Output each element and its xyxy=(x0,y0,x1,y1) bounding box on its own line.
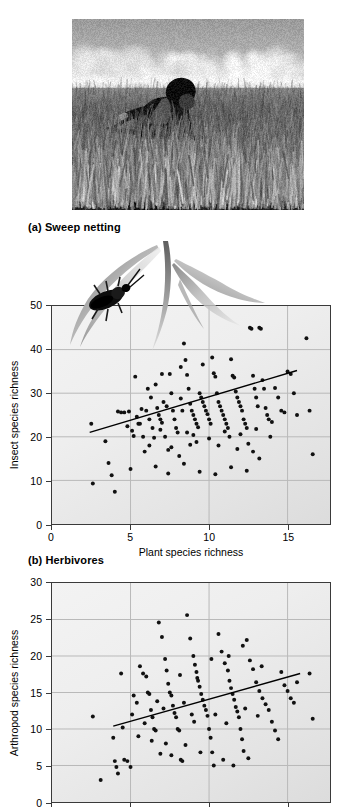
data-point xyxy=(276,737,280,741)
data-point xyxy=(207,437,211,441)
data-point xyxy=(185,373,189,377)
data-point xyxy=(279,670,283,674)
data-point xyxy=(210,355,214,359)
data-point xyxy=(257,457,261,461)
data-point xyxy=(151,426,155,430)
y-axis-tick-label: 15 xyxy=(0,687,42,699)
y-axis-tick-mark xyxy=(46,393,51,394)
y-axis-title: Arthropod species richness xyxy=(8,629,20,756)
data-point xyxy=(242,749,246,753)
data-point xyxy=(119,672,123,676)
scatter-points xyxy=(91,613,315,782)
data-point xyxy=(191,433,195,437)
data-point xyxy=(91,481,95,485)
data-point xyxy=(276,396,280,400)
x-axis-tick-mark xyxy=(130,525,131,530)
data-point xyxy=(171,704,175,708)
data-point xyxy=(113,490,117,494)
data-point xyxy=(223,417,227,421)
y-axis-tick-mark xyxy=(46,766,51,767)
data-point xyxy=(229,686,233,690)
data-point xyxy=(99,778,103,782)
data-point xyxy=(121,726,125,730)
data-point xyxy=(241,644,245,648)
data-point xyxy=(166,471,170,475)
data-point xyxy=(221,758,225,762)
data-point xyxy=(130,429,134,433)
data-point xyxy=(212,764,216,768)
data-point xyxy=(251,667,255,671)
y-axis-tick-mark xyxy=(46,693,51,694)
data-point xyxy=(195,670,199,674)
x-axis-tick-mark xyxy=(209,525,210,530)
data-point xyxy=(130,712,134,716)
data-point xyxy=(162,400,166,404)
x-axis-tick-mark xyxy=(130,803,131,807)
panel-caption-a: (a) Sweep netting xyxy=(28,221,121,233)
data-point xyxy=(201,362,205,366)
data-point xyxy=(251,450,255,454)
data-point xyxy=(229,465,233,469)
data-point xyxy=(157,413,161,417)
data-point xyxy=(143,450,147,454)
y-axis-tick-label: 25 xyxy=(0,613,42,625)
data-point xyxy=(129,467,133,471)
data-point xyxy=(155,699,159,703)
data-point xyxy=(212,371,216,375)
data-point xyxy=(234,705,238,709)
data-point xyxy=(226,426,230,430)
data-point xyxy=(158,752,162,756)
data-point xyxy=(173,417,177,421)
x-axis-tick-mark xyxy=(209,803,210,807)
data-point xyxy=(227,435,231,439)
data-point xyxy=(146,387,150,391)
data-point xyxy=(267,417,271,421)
data-point xyxy=(103,439,107,443)
y-axis-tick-label: 20 xyxy=(0,650,42,662)
data-point xyxy=(141,435,145,439)
data-point xyxy=(249,327,253,331)
data-point xyxy=(217,444,221,448)
data-point xyxy=(253,387,257,391)
data-point xyxy=(195,676,199,680)
data-point xyxy=(163,435,167,439)
data-point xyxy=(227,654,231,658)
data-point xyxy=(150,739,154,743)
data-point xyxy=(245,426,249,430)
y-axis-tick-mark xyxy=(46,481,51,482)
data-point xyxy=(206,412,210,416)
data-point xyxy=(209,736,213,740)
sweep-netting-photo xyxy=(72,19,304,210)
data-point xyxy=(190,409,194,413)
data-point xyxy=(246,756,250,760)
data-point xyxy=(169,693,173,697)
data-point xyxy=(245,469,249,473)
data-point xyxy=(147,444,151,448)
data-point xyxy=(204,409,208,413)
data-point xyxy=(133,375,137,379)
data-point xyxy=(132,434,136,438)
panel-caption-b: (b) Herbivores xyxy=(28,554,104,566)
data-point xyxy=(149,396,153,400)
data-point xyxy=(191,654,195,658)
data-point xyxy=(185,430,189,434)
data-point xyxy=(152,436,156,440)
data-point xyxy=(165,404,169,408)
data-point xyxy=(202,704,206,708)
data-point xyxy=(180,759,184,763)
data-point xyxy=(248,658,252,662)
data-point xyxy=(110,473,114,477)
data-point xyxy=(176,430,180,434)
data-point xyxy=(198,750,202,754)
data-point xyxy=(149,708,153,712)
data-point xyxy=(169,445,173,449)
data-point xyxy=(154,464,158,468)
data-point xyxy=(207,417,211,421)
data-point xyxy=(224,422,228,426)
y-axis-tick-label: 10 xyxy=(0,723,42,735)
data-point xyxy=(138,422,142,426)
data-point xyxy=(193,417,197,421)
data-point xyxy=(213,375,217,379)
data-point xyxy=(173,711,177,715)
data-point xyxy=(221,413,225,417)
